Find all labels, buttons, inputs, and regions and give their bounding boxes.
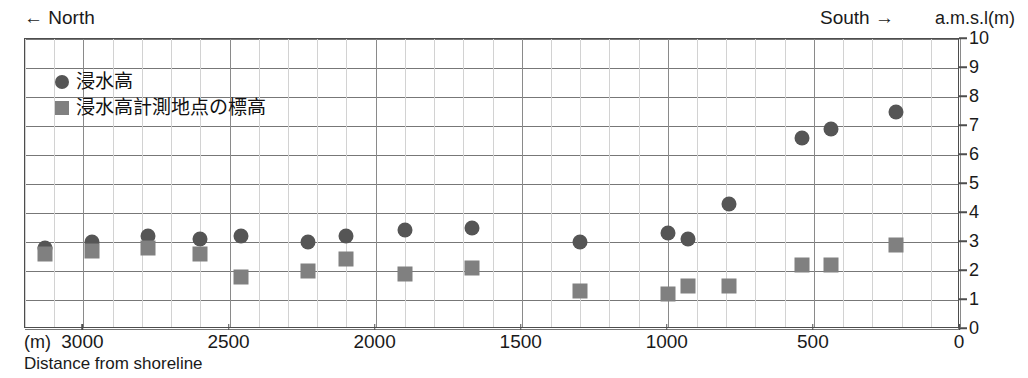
x-axis-unit-label: (m) xyxy=(24,332,51,352)
y-tick-label: 4 xyxy=(969,203,979,221)
x-tick-mark xyxy=(958,324,960,330)
y-tick-label: 10 xyxy=(969,29,989,47)
legend-item-inundation-height: 浸水高 xyxy=(55,69,266,95)
data-point-ground-elevation xyxy=(573,284,588,299)
data-point-ground-elevation xyxy=(193,246,208,261)
data-point-ground-elevation xyxy=(888,237,903,252)
data-point-ground-elevation xyxy=(681,278,696,293)
y-tick-mark xyxy=(959,153,967,155)
x-axis-title: Distance from shoreline xyxy=(24,354,203,374)
data-point-ground-elevation xyxy=(824,258,839,273)
y-tick-label: 9 xyxy=(969,58,979,76)
gridline-vertical xyxy=(25,39,26,327)
data-point-inundation-height xyxy=(681,232,696,247)
gridline-vertical xyxy=(551,39,552,327)
data-point-inundation-height xyxy=(193,232,208,247)
north-direction-label: ← North xyxy=(24,6,95,30)
data-point-inundation-height xyxy=(824,121,839,136)
square-marker-icon xyxy=(55,101,69,115)
x-tick-label: 1500 xyxy=(500,332,542,352)
data-point-ground-elevation xyxy=(397,266,412,281)
gridline-vertical xyxy=(609,39,610,327)
data-point-inundation-height xyxy=(795,130,810,145)
gridline-vertical xyxy=(317,39,318,327)
data-point-ground-elevation xyxy=(234,269,249,284)
data-point-ground-elevation xyxy=(140,240,155,255)
x-axis: (m) Distance from shoreline 300025002000… xyxy=(0,330,1028,378)
x-tick-label: 2000 xyxy=(353,332,395,352)
gridline-horizontal xyxy=(25,271,958,272)
gridline-vertical xyxy=(493,39,494,327)
gridline-horizontal xyxy=(25,39,958,40)
gridline-vertical xyxy=(346,39,347,327)
data-point-inundation-height xyxy=(888,104,903,119)
gridline-vertical xyxy=(902,39,903,327)
y-tick-label: 7 xyxy=(969,116,979,134)
y-tick-mark xyxy=(959,211,967,213)
y-tick-label: 5 xyxy=(969,174,979,192)
gridline-vertical xyxy=(522,39,523,327)
y-tick-label: 1 xyxy=(969,290,979,308)
data-point-ground-elevation xyxy=(660,287,675,302)
data-point-inundation-height xyxy=(465,220,480,235)
y-tick-label: 6 xyxy=(969,145,979,163)
data-point-inundation-height xyxy=(660,226,675,241)
gridline-vertical xyxy=(405,39,406,327)
y-tick-mark xyxy=(959,124,967,126)
gridline-vertical xyxy=(639,39,640,327)
gridline-horizontal xyxy=(25,300,958,301)
y-tick-mark xyxy=(959,66,967,68)
data-point-ground-elevation xyxy=(301,264,316,279)
gridline-vertical xyxy=(376,39,377,327)
x-tick-label: 1000 xyxy=(646,332,688,352)
y-tick-mark xyxy=(959,37,967,39)
y-tick-label: 3 xyxy=(969,232,979,250)
y-tick-mark xyxy=(959,240,967,242)
gridline-vertical xyxy=(785,39,786,327)
gridline-horizontal xyxy=(25,184,958,185)
y-axis: 012345678910 xyxy=(959,38,1019,328)
y-tick-mark xyxy=(959,182,967,184)
legend-label: 浸水高 xyxy=(76,71,133,93)
gridline-vertical xyxy=(668,39,669,327)
data-point-inundation-height xyxy=(722,197,737,212)
data-point-ground-elevation xyxy=(85,243,100,258)
gridline-vertical xyxy=(843,39,844,327)
x-tick-mark xyxy=(520,324,522,330)
y-tick-mark xyxy=(959,95,967,97)
gridline-horizontal xyxy=(25,213,958,214)
y-tick-mark xyxy=(959,327,967,329)
legend-label: 浸水高計測地点の標高 xyxy=(76,97,266,119)
x-tick-label: 3000 xyxy=(61,332,103,352)
south-direction-label: South → xyxy=(820,6,894,30)
y-tick-mark xyxy=(959,269,967,271)
x-tick-mark xyxy=(82,324,84,330)
gridline-horizontal xyxy=(25,242,958,243)
x-tick-mark xyxy=(228,324,230,330)
data-point-ground-elevation xyxy=(465,261,480,276)
gridline-vertical xyxy=(463,39,464,327)
x-tick-mark xyxy=(666,324,668,330)
plot-area: 浸水高 浸水高計測地点の標高 xyxy=(24,38,959,328)
gridline-vertical xyxy=(931,39,932,327)
data-point-inundation-height xyxy=(234,229,249,244)
data-point-ground-elevation xyxy=(38,246,53,261)
y-tick-label: 8 xyxy=(969,87,979,105)
gridline-vertical xyxy=(755,39,756,327)
data-point-ground-elevation xyxy=(339,252,354,267)
chart-legend: 浸水高 浸水高計測地点の標高 xyxy=(55,69,266,121)
gridline-vertical xyxy=(697,39,698,327)
circle-marker-icon xyxy=(55,75,69,89)
chart-figure: ← North South → a.m.s.l(m) 浸水高 浸水高計測地点の標… xyxy=(0,0,1028,378)
gridline-horizontal xyxy=(25,126,958,127)
gridline-vertical xyxy=(434,39,435,327)
data-point-ground-elevation xyxy=(722,278,737,293)
y-tick-label: 2 xyxy=(969,261,979,279)
y-tick-mark xyxy=(959,298,967,300)
legend-item-ground-elevation: 浸水高計測地点の標高 xyxy=(55,95,266,121)
x-tick-mark xyxy=(812,324,814,330)
gridline-vertical xyxy=(814,39,815,327)
gridline-horizontal xyxy=(25,155,958,156)
data-point-inundation-height xyxy=(397,223,412,238)
x-tick-mark xyxy=(374,324,376,330)
